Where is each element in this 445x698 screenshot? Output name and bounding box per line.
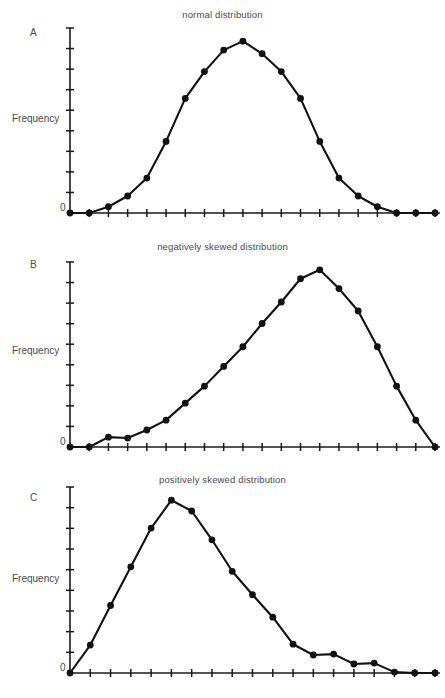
chart-panel-a: normal distribution A Frequency 0 bbox=[0, 0, 445, 232]
figure-root: normal distribution A Frequency 0 negati… bbox=[0, 0, 445, 698]
chart-panel-b: negatively skewed distribution B Frequen… bbox=[0, 232, 445, 465]
plot-area-a bbox=[0, 0, 445, 233]
plot-area-c bbox=[0, 465, 445, 698]
chart-panel-c: positively skewed distribution C Frequen… bbox=[0, 465, 445, 698]
plot-area-b bbox=[0, 232, 445, 465]
